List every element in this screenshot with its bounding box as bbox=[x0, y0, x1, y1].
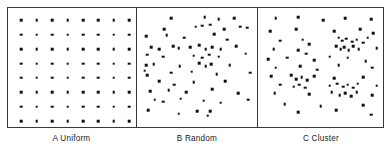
data-point bbox=[313, 75, 316, 78]
panel-random bbox=[136, 7, 259, 128]
data-point bbox=[337, 64, 340, 67]
data-point bbox=[366, 36, 369, 39]
data-point bbox=[113, 105, 116, 108]
data-point bbox=[146, 53, 149, 56]
data-point bbox=[178, 65, 181, 68]
data-point bbox=[35, 48, 38, 51]
data-point bbox=[128, 62, 131, 65]
data-point bbox=[355, 91, 358, 94]
data-point bbox=[113, 77, 116, 80]
data-point bbox=[301, 38, 304, 41]
data-point bbox=[51, 120, 54, 123]
data-point bbox=[82, 120, 85, 123]
data-point bbox=[172, 45, 175, 48]
data-point bbox=[336, 82, 339, 85]
data-point bbox=[177, 112, 180, 115]
data-point bbox=[358, 48, 361, 51]
data-point bbox=[290, 74, 293, 77]
data-point bbox=[82, 33, 85, 36]
data-point bbox=[304, 87, 307, 90]
data-point bbox=[35, 33, 38, 36]
data-point bbox=[189, 46, 192, 49]
data-point bbox=[20, 33, 23, 36]
data-point bbox=[147, 109, 150, 112]
data-point bbox=[97, 120, 100, 123]
data-point bbox=[267, 58, 270, 61]
data-point bbox=[337, 36, 340, 39]
data-point bbox=[35, 77, 38, 80]
data-point bbox=[226, 38, 229, 41]
data-point bbox=[195, 26, 198, 29]
data-point bbox=[179, 97, 182, 100]
data-point bbox=[51, 48, 54, 51]
data-point bbox=[190, 70, 193, 73]
point-pattern-figure: A Uniform B Random C Cluster bbox=[0, 0, 392, 150]
data-point bbox=[66, 105, 69, 108]
data-point bbox=[113, 62, 116, 65]
data-point bbox=[158, 80, 161, 83]
data-point bbox=[20, 91, 23, 94]
data-point bbox=[359, 28, 362, 31]
data-point bbox=[362, 104, 365, 107]
data-point bbox=[213, 33, 216, 36]
data-point bbox=[146, 74, 149, 77]
data-point bbox=[362, 76, 365, 79]
data-point bbox=[82, 19, 85, 22]
data-point bbox=[35, 19, 38, 22]
data-point bbox=[331, 91, 334, 94]
data-point bbox=[82, 91, 85, 94]
data-point bbox=[297, 49, 300, 52]
data-point bbox=[97, 62, 100, 65]
data-point bbox=[269, 30, 272, 33]
data-point bbox=[66, 91, 69, 94]
data-point bbox=[152, 63, 155, 66]
data-point bbox=[220, 48, 223, 51]
data-point bbox=[362, 42, 365, 45]
data-point bbox=[335, 45, 338, 48]
data-point bbox=[209, 23, 212, 26]
data-point bbox=[217, 18, 220, 21]
data-point bbox=[283, 103, 286, 106]
data-point bbox=[113, 91, 116, 94]
data-point bbox=[35, 91, 38, 94]
data-point bbox=[342, 85, 345, 88]
data-point bbox=[274, 66, 277, 69]
data-point bbox=[217, 55, 220, 58]
caption-uniform: A Uniform bbox=[7, 131, 136, 148]
data-point bbox=[144, 69, 147, 72]
data-point bbox=[153, 98, 156, 101]
data-point bbox=[35, 120, 38, 123]
data-point bbox=[66, 77, 69, 80]
data-point bbox=[338, 94, 341, 97]
panels-row bbox=[7, 7, 384, 128]
data-point bbox=[249, 72, 252, 75]
data-point bbox=[223, 28, 226, 31]
data-point bbox=[165, 34, 168, 37]
data-point bbox=[215, 73, 218, 76]
data-point bbox=[351, 40, 354, 43]
data-point bbox=[235, 45, 238, 48]
data-point bbox=[207, 114, 210, 117]
data-point bbox=[177, 47, 180, 50]
data-point bbox=[352, 87, 355, 90]
data-point bbox=[20, 48, 23, 51]
caption-random: B Random bbox=[136, 131, 258, 148]
data-point bbox=[113, 33, 116, 36]
data-point bbox=[128, 33, 131, 36]
data-point bbox=[345, 37, 348, 40]
data-point bbox=[158, 48, 161, 51]
data-point bbox=[356, 82, 359, 85]
data-point bbox=[371, 66, 374, 69]
data-point bbox=[20, 62, 23, 65]
data-point bbox=[299, 65, 302, 68]
data-point bbox=[185, 91, 188, 94]
data-point bbox=[344, 92, 347, 95]
data-point bbox=[313, 59, 316, 62]
data-point bbox=[66, 19, 69, 22]
data-point bbox=[297, 111, 300, 114]
data-point bbox=[51, 91, 54, 94]
data-point bbox=[198, 62, 201, 65]
data-point bbox=[208, 53, 211, 56]
data-point bbox=[20, 77, 23, 80]
data-point bbox=[305, 52, 308, 55]
